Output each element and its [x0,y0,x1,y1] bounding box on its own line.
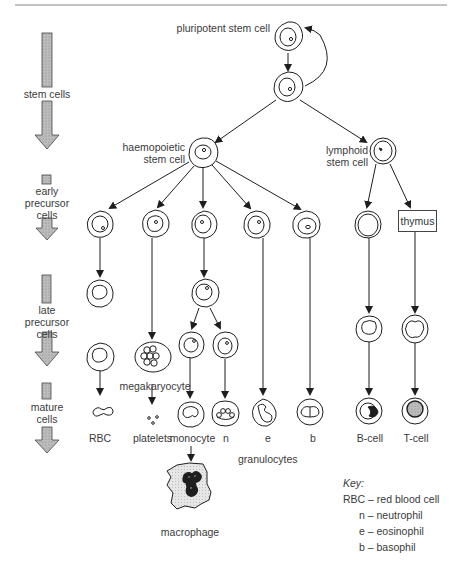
key-entry-neutrophil: n – neutrophil [359,509,423,521]
rbc-icon [93,407,113,416]
macrophage-icon [167,463,211,509]
mature-bar [42,383,51,399]
label-t-cell: T-cell [396,432,436,444]
late-precursor-cell-icon [87,280,113,307]
lymphoid-stem-cell-icon [370,138,396,164]
label-neutrophil: n [216,432,236,444]
key-entry-rbc: RBC – red blood cell [343,493,439,505]
b-cell-icon [356,398,382,424]
label-haemopoietic-stem-cell: haemopoietic stem cell [100,141,185,165]
late-bar [42,275,51,303]
stem-arrow [35,101,59,149]
early-precursor-cell-icon [355,211,381,238]
t-cell-icon [402,398,428,424]
late-precursor-cell-icon [87,343,114,371]
label-pluripotent-stem-cell: pluripotent stem cell [150,22,270,34]
key-title: Key: [343,477,364,489]
early-precursor-cell-icon [244,211,270,238]
label-b-cell: B-cell [350,432,390,444]
platelets-icon [148,416,159,425]
eosinophil-icon [252,399,276,426]
megakaryocyte-icon [135,342,171,372]
late-precursor-cell-icon [192,279,219,307]
promonocyte-cell-icon [179,332,204,358]
mature-arrow [35,427,59,453]
stem-cell-icon [274,72,303,102]
key-entry-eosinophil: e – eosinophil [359,525,424,537]
label-macrophage: macrophage [155,526,225,538]
thymocyte-cell-icon [402,315,428,343]
stage-label-early-precursor: early precursor cells [12,185,82,221]
haemopoietic-stem-cell-icon [189,138,218,168]
monocyte-icon [178,402,204,427]
key-entry-basophil: b – basophil [359,541,416,553]
stage-label-mature: mature cells [12,401,82,425]
label-megakaryocyte: megakaryocyte [110,380,200,392]
early-bar [42,175,51,184]
lymphoblast-cell-icon [356,316,382,342]
thymus-box: thymus [398,210,437,232]
label-lymphoid-stem-cell: lymphoid stem cell [310,144,368,168]
stem-bar [42,33,52,87]
neutrophil-icon [212,401,239,426]
early-arrow [36,218,58,240]
pluripotent-stem-cell-icon [275,22,303,51]
label-monocyte: monocyte [165,432,220,444]
early-precursor-cell-icon [143,210,170,237]
label-basophil: b [303,432,323,444]
stage-label-late-precursor: late precursor cells [12,304,82,340]
self-renewal-arrow [305,28,327,86]
label-granulocytes: granulocytes [238,453,298,465]
haematopoiesis-diagram [0,0,462,567]
promyelocyte-cell-icon [213,332,238,358]
early-precursor-cell-icon [87,211,113,237]
early-precursor-cell-icon [192,211,217,238]
early-precursor-cell-icon [293,211,320,238]
stage-label-stem-cells: stem cells [17,88,77,100]
label-rbc: RBC [80,432,120,444]
basophil-icon [297,399,323,425]
label-eosinophil: e [258,432,278,444]
